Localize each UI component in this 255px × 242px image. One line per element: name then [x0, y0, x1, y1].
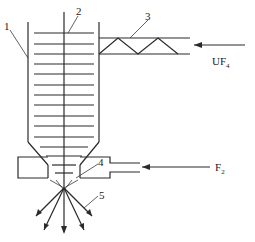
- screw-feeder: [99, 38, 245, 54]
- label-f2: F2: [215, 161, 225, 176]
- label-2: 2: [76, 5, 82, 17]
- label-uf4: UF4: [212, 55, 230, 70]
- label-5: 5: [99, 189, 105, 201]
- label-4: 4: [98, 156, 104, 168]
- reactor-diagram: 1 2 3 4 5 UF4 F2: [0, 0, 255, 242]
- label-1: 1: [4, 20, 10, 32]
- nozzle-housing: [18, 157, 210, 178]
- label-3: 3: [145, 10, 151, 22]
